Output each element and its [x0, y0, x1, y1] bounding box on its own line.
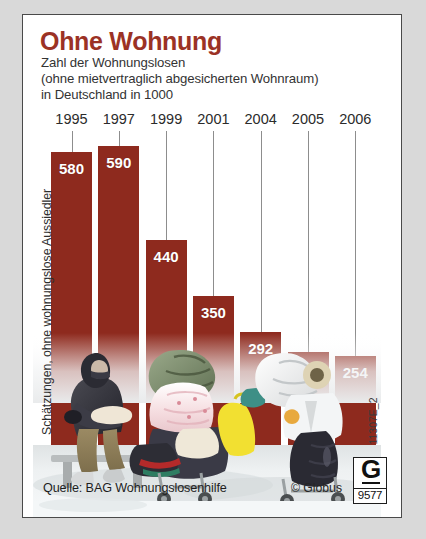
infographic-card: Ohne Wohnung Zahl der Wohnungslosen (ohn… — [22, 14, 402, 518]
bar-value-1997: 590 — [98, 154, 139, 171]
globus-number: 9577 — [353, 489, 387, 504]
connector-line-1999 — [166, 131, 167, 240]
connector-line-2001 — [213, 131, 214, 296]
globus-logo-mark: G — [353, 457, 387, 489]
globus-logo: G 9577 — [353, 457, 387, 504]
connector-line-1997 — [119, 131, 120, 146]
globus-underline-icon — [362, 482, 380, 484]
copyright-label: © Globus — [291, 481, 342, 495]
connector-line-1995 — [72, 131, 73, 152]
globus-g-letter: G — [354, 454, 388, 485]
connector-line-2004 — [261, 131, 262, 332]
year-label-1997: 1997 — [92, 111, 145, 127]
left-note: Schätzungen, ohne wohnungslose Aussiedle… — [40, 245, 54, 435]
bar-value-1995: 580 — [51, 160, 92, 177]
year-label-2004: 2004 — [234, 111, 287, 127]
year-label-1995: 1995 — [45, 111, 98, 127]
year-label-2005: 2005 — [282, 111, 335, 127]
publication-code: 11307E_2 — [367, 381, 379, 461]
year-label-2001: 2001 — [187, 111, 240, 127]
year-label-1999: 1999 — [140, 111, 193, 127]
connector-line-2006 — [355, 131, 356, 356]
source-label: Quelle: BAG Wohnungslosenhilfe — [43, 481, 227, 495]
connector-line-2005 — [308, 131, 309, 352]
bar-value-1999: 440 — [146, 248, 187, 265]
bar-value-2001: 350 — [193, 304, 234, 321]
year-label-2006: 2006 — [329, 111, 382, 127]
